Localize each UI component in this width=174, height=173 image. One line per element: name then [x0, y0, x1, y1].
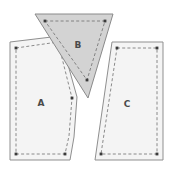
vertex-marker — [116, 47, 119, 50]
vertex-marker — [156, 153, 159, 156]
vertex-marker — [71, 97, 74, 100]
vertex-marker — [100, 153, 103, 156]
vertex-marker — [15, 47, 18, 50]
shape-a-label: A — [38, 98, 45, 108]
shape-c-label: C — [124, 99, 131, 109]
shape-group-c[interactable]: C — [95, 42, 163, 160]
figure-canvas: A B C — [0, 0, 174, 173]
vertex-marker — [64, 153, 67, 156]
shape-b-label: B — [75, 40, 82, 50]
vertex-marker — [44, 20, 47, 23]
vertex-marker — [86, 79, 89, 82]
vertex-marker — [156, 47, 159, 50]
polygon-diagram: A B C — [0, 0, 174, 173]
vertex-marker — [15, 153, 18, 156]
vertex-marker — [104, 20, 107, 23]
